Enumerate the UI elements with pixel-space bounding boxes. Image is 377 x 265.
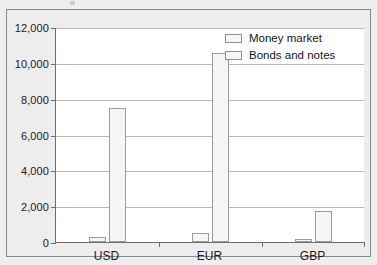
gridline: [56, 207, 364, 208]
legend-item-money-market[interactable]: Money market: [225, 32, 335, 44]
x-tick-label-eur: EUR: [197, 249, 222, 263]
x-tick-mark: [262, 242, 263, 247]
y-tick-label: 4,000: [21, 165, 49, 177]
y-axis: 02,0004,0006,0008,00010,00012,000: [7, 28, 49, 243]
bar-eur-money-market: [192, 233, 209, 242]
y-tick-label: 6,000: [21, 130, 49, 142]
legend-swatch-icon: [225, 34, 242, 43]
y-tick-mark: [51, 100, 56, 101]
gridline: [56, 100, 364, 101]
y-tick-mark: [51, 64, 56, 65]
gridline: [56, 64, 364, 65]
gridline: [56, 28, 364, 29]
bar-usd-money-market: [89, 237, 106, 242]
legend-swatch-icon: [225, 51, 242, 60]
y-tick-label: 2,000: [21, 201, 49, 213]
y-tick-mark: [51, 136, 56, 137]
scan-artifact: [70, 1, 75, 5]
legend-label: Bonds and notes: [249, 49, 335, 61]
y-tick-mark: [51, 207, 56, 208]
legend-label: Money market: [249, 32, 322, 44]
figure-frame: 02,0004,0006,0008,00010,00012,000 USDEUR…: [6, 9, 371, 257]
gridline: [56, 171, 364, 172]
x-tick-mark: [364, 242, 365, 247]
y-tick-mark: [51, 171, 56, 172]
y-tick-mark: [51, 243, 56, 244]
chart-legend: Money marketBonds and notes: [225, 32, 335, 61]
y-tick-label: 8,000: [21, 94, 49, 106]
y-tick-mark: [51, 28, 56, 29]
y-tick-label: 12,000: [15, 22, 49, 34]
x-tick-label-gbp: GBP: [300, 249, 325, 263]
chart-figure: 02,0004,0006,0008,00010,00012,000 USDEUR…: [0, 0, 377, 265]
gridline: [56, 136, 364, 137]
bar-gbp-money-market: [295, 239, 312, 242]
y-tick-label: 10,000: [15, 58, 49, 70]
y-tick-label: 0: [43, 237, 49, 249]
x-tick-mark: [159, 242, 160, 247]
bar-eur-bonds-and-notes: [212, 53, 229, 242]
legend-item-bonds-and-notes[interactable]: Bonds and notes: [225, 49, 335, 61]
x-tick-label-usd: USD: [94, 249, 119, 263]
bar-gbp-bonds-and-notes: [315, 211, 332, 242]
bar-usd-bonds-and-notes: [109, 108, 126, 242]
